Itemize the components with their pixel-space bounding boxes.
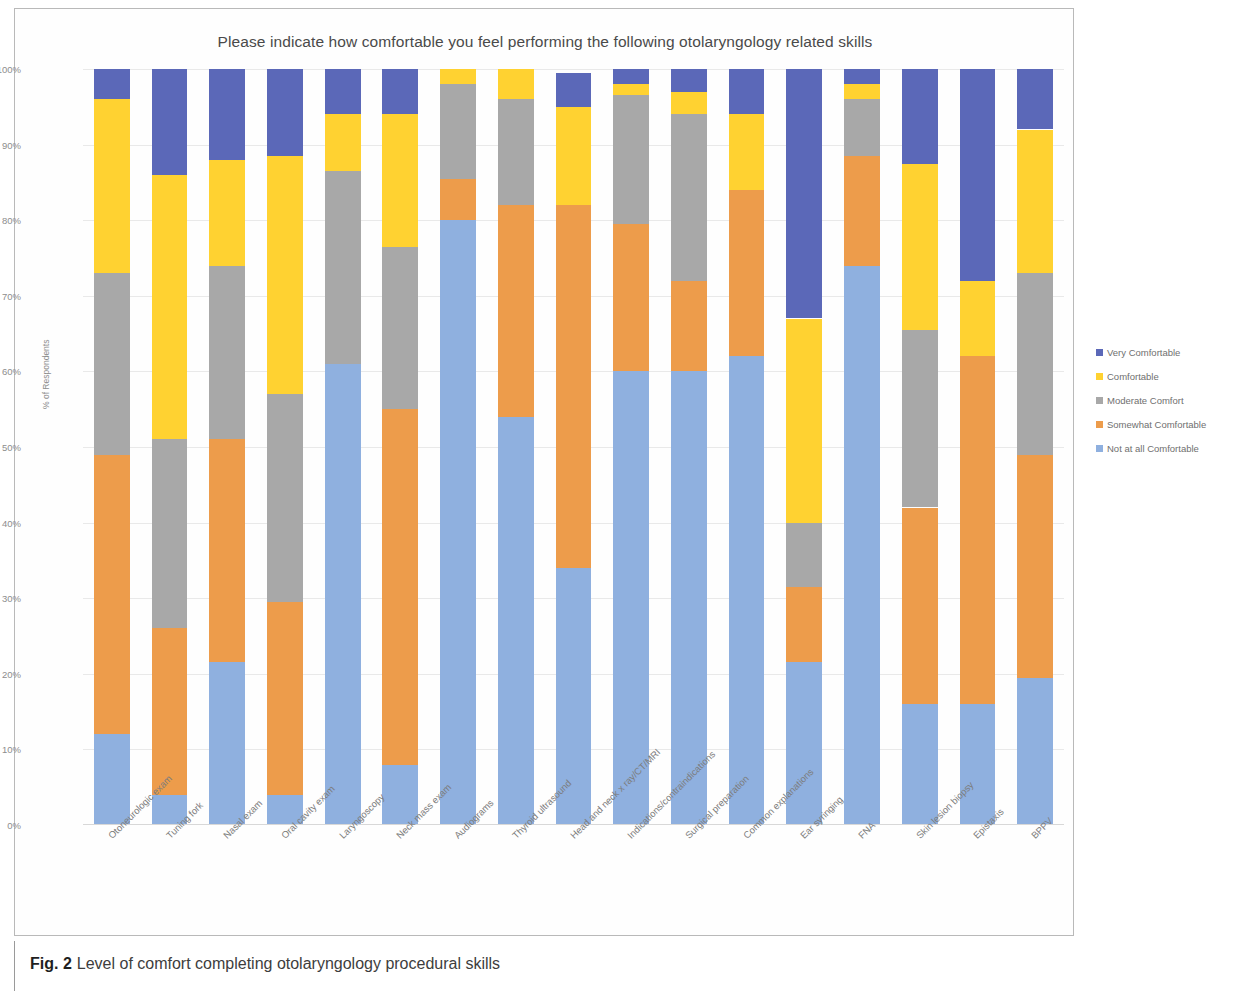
legend-item[interactable]: Moderate Comfort bbox=[1096, 388, 1242, 412]
bar-segment[interactable] bbox=[1017, 273, 1053, 454]
legend-item[interactable]: Somewhat Comfortable bbox=[1096, 412, 1242, 436]
legend-label: Not at all Comfortable bbox=[1107, 443, 1199, 454]
bar-group[interactable] bbox=[267, 69, 303, 825]
bar-segment[interactable] bbox=[1017, 678, 1053, 825]
bar-segment[interactable] bbox=[786, 587, 822, 663]
bar-segment[interactable] bbox=[613, 224, 649, 371]
bar-segment[interactable] bbox=[440, 69, 476, 84]
bar-group[interactable] bbox=[556, 69, 592, 825]
bar-segment[interactable] bbox=[209, 69, 245, 160]
bar-group[interactable] bbox=[902, 69, 938, 825]
bar-segment[interactable] bbox=[671, 114, 707, 280]
bar-group[interactable] bbox=[325, 69, 361, 825]
bar-segment[interactable] bbox=[1017, 455, 1053, 678]
bar-segment[interactable] bbox=[1017, 69, 1053, 129]
bar-segment[interactable] bbox=[671, 92, 707, 115]
y-axis-tick-label: 100% bbox=[0, 64, 21, 75]
bar-segment[interactable] bbox=[960, 704, 996, 825]
bar-segment[interactable] bbox=[94, 734, 130, 825]
bar-segment[interactable] bbox=[382, 69, 418, 114]
bar-segment[interactable] bbox=[729, 69, 765, 114]
bar-segment[interactable] bbox=[382, 247, 418, 410]
bar-group[interactable] bbox=[152, 69, 188, 825]
bar-segment[interactable] bbox=[556, 205, 592, 568]
bar-segment[interactable] bbox=[902, 508, 938, 705]
bar-segment[interactable] bbox=[671, 281, 707, 372]
bar-segment[interactable] bbox=[844, 69, 880, 84]
bar-segment[interactable] bbox=[267, 602, 303, 795]
bar-segment[interactable] bbox=[786, 662, 822, 825]
bar-segment[interactable] bbox=[498, 99, 534, 205]
bar-segment[interactable] bbox=[382, 114, 418, 246]
bar-group[interactable] bbox=[960, 69, 996, 825]
bar-segment[interactable] bbox=[498, 205, 534, 417]
bar-segment[interactable] bbox=[209, 266, 245, 440]
bar-segment[interactable] bbox=[902, 164, 938, 330]
bar-segment[interactable] bbox=[94, 273, 130, 454]
bar-segment[interactable] bbox=[440, 179, 476, 221]
bar-segment[interactable] bbox=[844, 84, 880, 99]
bar-segment[interactable] bbox=[729, 190, 765, 356]
bar-segment[interactable] bbox=[382, 409, 418, 764]
legend-item[interactable]: Comfortable bbox=[1096, 364, 1242, 388]
bar-segment[interactable] bbox=[613, 95, 649, 224]
bar-segment[interactable] bbox=[440, 220, 476, 825]
y-axis-tick-label: 70% bbox=[0, 290, 21, 301]
bar-group[interactable] bbox=[498, 69, 534, 825]
bar-segment[interactable] bbox=[267, 69, 303, 156]
bar-segment[interactable] bbox=[94, 455, 130, 735]
bar-segment[interactable] bbox=[325, 171, 361, 364]
bar-segment[interactable] bbox=[267, 394, 303, 602]
bar-segment[interactable] bbox=[786, 523, 822, 587]
bar-group[interactable] bbox=[1017, 69, 1053, 825]
bar-segment[interactable] bbox=[267, 156, 303, 394]
bar-segment[interactable] bbox=[844, 266, 880, 825]
bar-segment[interactable] bbox=[729, 114, 765, 190]
bar-segment[interactable] bbox=[844, 99, 880, 156]
bar-segment[interactable] bbox=[960, 69, 996, 281]
bar-segment[interactable] bbox=[902, 704, 938, 825]
bar-segment[interactable] bbox=[94, 99, 130, 273]
bar-segment[interactable] bbox=[786, 319, 822, 523]
bar-segment[interactable] bbox=[152, 175, 188, 440]
bar-segment[interactable] bbox=[556, 73, 592, 107]
bar-segment[interactable] bbox=[902, 69, 938, 164]
legend-item[interactable]: Very Comfortable bbox=[1096, 340, 1242, 364]
bar-segment[interactable] bbox=[902, 330, 938, 508]
bar-segment[interactable] bbox=[440, 84, 476, 179]
bar-segment[interactable] bbox=[94, 69, 130, 99]
bar-segment[interactable] bbox=[209, 439, 245, 662]
bar-segment[interactable] bbox=[498, 69, 534, 99]
bar-segment[interactable] bbox=[556, 107, 592, 205]
bar-segment[interactable] bbox=[152, 628, 188, 794]
bar-segment[interactable] bbox=[325, 114, 361, 171]
bar-segment[interactable] bbox=[152, 69, 188, 175]
bar-group[interactable] bbox=[844, 69, 880, 825]
bar-segment[interactable] bbox=[960, 356, 996, 704]
bar-segment[interactable] bbox=[613, 69, 649, 84]
legend-item[interactable]: Not at all Comfortable bbox=[1096, 436, 1242, 460]
bar-segment[interactable] bbox=[1017, 130, 1053, 274]
bar-segment[interactable] bbox=[729, 356, 765, 825]
bar-group[interactable] bbox=[613, 69, 649, 825]
bar-stack bbox=[786, 69, 822, 825]
bar-segment[interactable] bbox=[325, 69, 361, 114]
bar-group[interactable] bbox=[440, 69, 476, 825]
bar-segment[interactable] bbox=[844, 156, 880, 266]
bar-segment[interactable] bbox=[152, 439, 188, 628]
bar-segment[interactable] bbox=[960, 281, 996, 357]
bar-group[interactable] bbox=[729, 69, 765, 825]
bar-group[interactable] bbox=[382, 69, 418, 825]
bar-segment[interactable] bbox=[498, 417, 534, 825]
bar-segment[interactable] bbox=[325, 364, 361, 825]
bar-group[interactable] bbox=[671, 69, 707, 825]
bar-segment[interactable] bbox=[209, 160, 245, 266]
bar-segment[interactable] bbox=[671, 69, 707, 92]
bar-segment[interactable] bbox=[786, 69, 822, 318]
bar-stack bbox=[152, 69, 188, 825]
bar-group[interactable] bbox=[786, 69, 822, 825]
bar-group[interactable] bbox=[209, 69, 245, 825]
bar-segment[interactable] bbox=[209, 662, 245, 825]
bar-segment[interactable] bbox=[613, 84, 649, 95]
bar-group[interactable] bbox=[94, 69, 130, 825]
